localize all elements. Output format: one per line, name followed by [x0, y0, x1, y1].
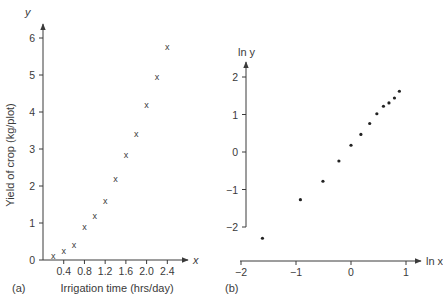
chart-a-data-point: x [124, 150, 129, 160]
chart-b-data-points [261, 90, 401, 240]
chart-a-y-tick-label: 0 [29, 254, 35, 266]
chart-a-data-point: x [82, 222, 87, 232]
chart-b-x-tick-label: −2 [235, 266, 247, 278]
chart-b-panel-label: (b) [225, 282, 238, 294]
chart-b-x-tick-label: 1 [403, 266, 409, 278]
chart-a-x-axis-title: Irrigation time (hrs/day) [60, 282, 173, 294]
chart-b-data-point [382, 105, 385, 108]
chart-a-x-tick-label: 0.8 [77, 265, 92, 277]
chart-b-data-point [368, 122, 371, 125]
chart-a-y-tick-label: 5 [29, 69, 35, 81]
chart-a-y-tick-label: 6 [29, 32, 35, 44]
chart-b-y-tick-label: 2 [232, 71, 238, 83]
chart-b-data-point [359, 133, 362, 136]
chart-a-data-point: x [51, 251, 56, 261]
chart-a-y-tick-label: 3 [29, 143, 35, 155]
figure: 0123456 0.40.81.21.62.02.4 xxxxxxxxxxxx … [0, 0, 443, 301]
chart-a-y-tick-label: 4 [29, 106, 35, 118]
chart-b-data-point [375, 112, 378, 115]
chart-a-data-point: x [155, 72, 160, 82]
chart-b-data-point [261, 237, 264, 240]
chart-a-data-point: x [113, 174, 118, 184]
chart-a-data-point: x [144, 100, 149, 110]
chart-b-y-tick-label: −2 [226, 221, 238, 233]
chart-b-data-point [398, 90, 401, 93]
chart-b-x-tick-label: 0 [348, 266, 354, 278]
chart-b-data-point [321, 180, 324, 183]
chart-b-y-var-text: ln y [238, 46, 256, 58]
chart-a-x-tick-label: 1.2 [98, 265, 113, 277]
chart-a-y-tick-label: 1 [29, 217, 35, 229]
chart-a-data-point: x [61, 246, 66, 256]
chart-a-y-axis-title: Yield of crop (kg/plot) [4, 103, 16, 207]
chart-b-data-point [387, 101, 390, 104]
chart-b-data-point [393, 96, 396, 99]
chart-b-y-tick-label: −1 [226, 184, 238, 196]
chart-b-y-ticks: −2−1012 [226, 71, 246, 233]
chart-b-y-tick-label: 0 [232, 146, 238, 158]
chart-b-x-var-label: ln x [426, 255, 443, 267]
chart-a-x-ticks: 0.40.81.21.62.02.4 [56, 260, 174, 277]
chart-a-data-point: x [165, 42, 170, 52]
chart-b-data-point [299, 198, 302, 201]
chart-a-y-tick-label: 2 [29, 180, 35, 192]
chart-b-y-var-label: ln y [238, 46, 256, 58]
chart-a-x-tick-label: 0.4 [56, 265, 71, 277]
chart-b-y-tick-label: 1 [232, 109, 238, 121]
chart-a-data-point: x [103, 196, 108, 206]
figure-svg: 0123456 0.40.81.21.62.02.4 xxxxxxxxxxxx … [0, 0, 443, 301]
chart-b-x-ticks: −2−101 [235, 261, 409, 278]
chart-a-x-tick-label: 1.6 [119, 265, 134, 277]
chart-a-data-point: x [93, 211, 98, 221]
chart-b: −2−1012 −2−101 ln y ln x (b) [225, 46, 443, 294]
chart-a-x-tick-label: 2.0 [139, 265, 154, 277]
chart-a-panel-label: (a) [12, 282, 25, 294]
chart-a-data-point: x [72, 240, 77, 250]
chart-a-data-point: x [134, 129, 139, 139]
chart-a: 0123456 0.40.81.21.62.02.4 xxxxxxxxxxxx … [4, 6, 199, 294]
chart-a-x-var-label: x [192, 254, 199, 266]
chart-a-y-var-label: y [24, 6, 32, 18]
chart-b-data-point [349, 144, 352, 147]
chart-b-x-tick-label: −1 [290, 266, 302, 278]
chart-b-data-point [337, 159, 340, 162]
chart-a-y-ticks: 0123456 [29, 32, 43, 266]
chart-a-x-tick-label: 2.4 [160, 265, 175, 277]
chart-a-data-points: xxxxxxxxxxxx [51, 42, 170, 261]
chart-b-x-var-text: ln x [426, 255, 443, 267]
